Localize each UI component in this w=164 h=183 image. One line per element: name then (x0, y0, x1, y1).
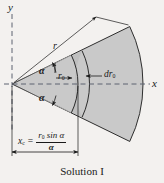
x-axis-label: x (152, 78, 157, 89)
equation-equals-sign: = (28, 137, 33, 147)
figure-caption: Solution I (0, 166, 164, 177)
inner-radius-label: r0 (58, 72, 65, 82)
differential-label: dr0 (104, 70, 115, 80)
equation-numerator: r0 sin α (36, 131, 66, 142)
centroid-equation: xc = r0 sin α α (18, 131, 66, 153)
angle-label-lower: α (39, 93, 45, 103)
inner-radius-subscript: 0 (62, 75, 65, 81)
radius-extension-line (96, 17, 129, 25)
equation-lhs: xc (18, 137, 25, 147)
differential-subscript: 0 (112, 73, 115, 79)
circular-sector-diagram (0, 0, 164, 183)
y-axis-label: y (8, 2, 13, 13)
angle-label-upper: α (39, 66, 45, 76)
equation-fraction: r0 sin α α (36, 131, 66, 153)
figure-container: y x r α α r0 dr0 xc = r0 sin α α Solutio… (0, 0, 164, 183)
radius-label: r (53, 41, 57, 51)
numerator-rest: sin α (45, 130, 65, 140)
equation-lhs-subscript: c (22, 140, 25, 146)
equation-denominator: α (47, 143, 56, 153)
